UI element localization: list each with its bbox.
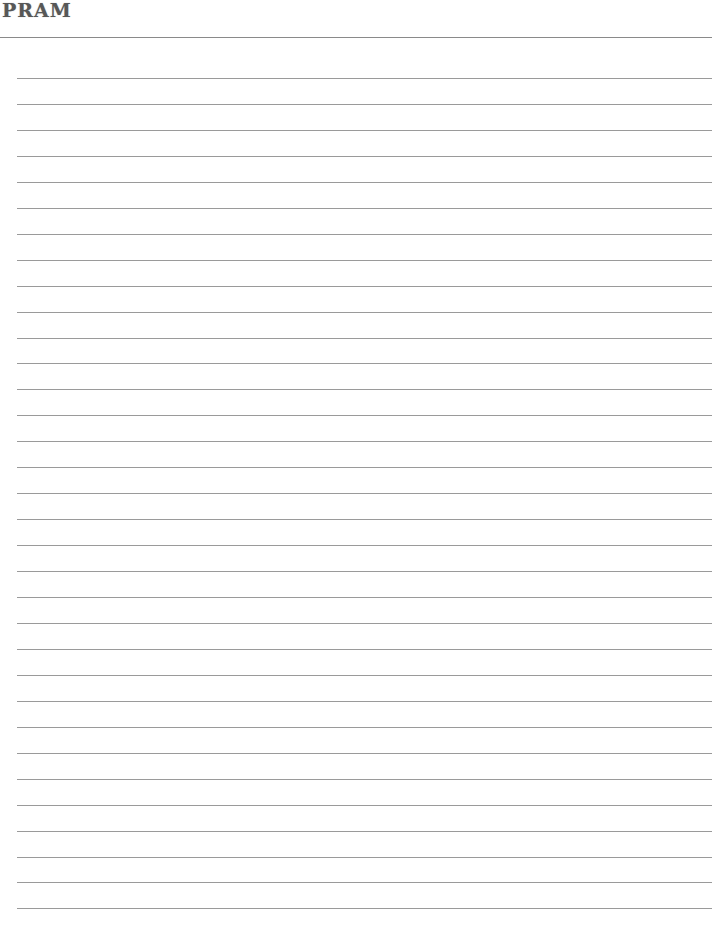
ruled-line (17, 234, 712, 235)
ruled-line (17, 104, 712, 105)
ruled-line (17, 805, 712, 806)
ruled-line (17, 779, 712, 780)
ruled-line (17, 208, 712, 209)
ruled-line (17, 857, 712, 858)
ruled-line (17, 182, 712, 183)
ruled-line (17, 545, 712, 546)
ruled-line (17, 831, 712, 832)
ruled-line (17, 338, 712, 339)
ruled-line (17, 908, 712, 909)
ruled-line (17, 675, 712, 676)
ruled-line (17, 493, 712, 494)
ruled-line (17, 156, 712, 157)
ruled-line (17, 260, 712, 261)
ruled-line (17, 753, 712, 754)
ruled-line (17, 519, 712, 520)
ruled-line (17, 130, 712, 131)
ruled-line (17, 389, 712, 390)
ruled-line (17, 727, 712, 728)
ruled-line (17, 363, 712, 364)
ruled-line (17, 882, 712, 883)
ruled-lines-area (17, 0, 712, 925)
ruled-line (17, 78, 712, 79)
ruled-line (17, 623, 712, 624)
ruled-line (17, 571, 712, 572)
ruled-line (17, 312, 712, 313)
ruled-line (17, 597, 712, 598)
ruled-line (17, 467, 712, 468)
ruled-line (17, 286, 712, 287)
ruled-line (17, 649, 712, 650)
ruled-line (17, 441, 712, 442)
ruled-line (17, 415, 712, 416)
ruled-line (17, 701, 712, 702)
